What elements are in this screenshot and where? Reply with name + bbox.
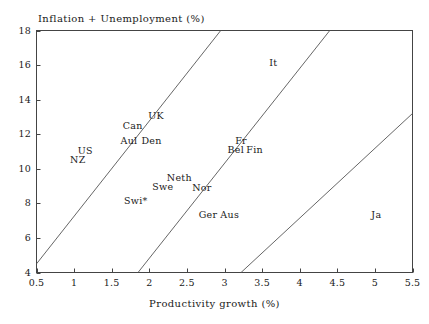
x-tick-label: 4.5 bbox=[322, 277, 352, 288]
country-label-us: US bbox=[78, 144, 93, 155]
y-tick-label: 16 bbox=[9, 59, 31, 70]
x-tick-label: 5 bbox=[360, 277, 390, 288]
y-tick-label: 6 bbox=[9, 232, 31, 243]
country-label-neth: Neth bbox=[167, 172, 192, 183]
country-label-aus: Aus bbox=[220, 208, 239, 219]
country-label-aul: Aul bbox=[121, 135, 138, 146]
chart-figure: Inflation + Unemployment (%) Productivit… bbox=[0, 0, 429, 324]
isoline-1 bbox=[37, 31, 221, 264]
x-tick-label: 1.5 bbox=[97, 277, 127, 288]
y-tick-label: 8 bbox=[9, 197, 31, 208]
country-label-can: Can bbox=[123, 119, 143, 130]
x-tick-label: 0.5 bbox=[22, 277, 52, 288]
country-label-nz: NZ bbox=[70, 154, 86, 165]
x-tick-label: 4 bbox=[285, 277, 315, 288]
x-tick-label: 1 bbox=[59, 277, 89, 288]
y-tick-label: 12 bbox=[9, 128, 31, 139]
plot-area bbox=[0, 0, 429, 324]
tick-marks bbox=[37, 32, 414, 274]
country-label-nor: Nor bbox=[192, 181, 211, 192]
country-label-ger: Ger bbox=[199, 208, 218, 219]
country-label-uk: UK bbox=[148, 110, 164, 121]
y-tick-label: 14 bbox=[9, 94, 31, 105]
isoline-3 bbox=[241, 113, 412, 272]
x-tick-label: 2 bbox=[134, 277, 164, 288]
y-tick-label: 18 bbox=[9, 25, 31, 36]
x-tick-label: 3.5 bbox=[247, 277, 277, 288]
x-tick-label: 3 bbox=[210, 277, 240, 288]
country-label-den: Den bbox=[141, 135, 161, 146]
y-tick-label: 4 bbox=[9, 267, 31, 278]
country-label-ja: Ja bbox=[371, 208, 381, 219]
y-tick-label: 10 bbox=[9, 163, 31, 174]
country-label-fin: Fin bbox=[246, 143, 263, 154]
country-label-it: It bbox=[269, 57, 277, 68]
x-tick-label: 2.5 bbox=[172, 277, 202, 288]
country-label-bel: Bel bbox=[227, 143, 244, 154]
country-label-swi: Swi* bbox=[124, 194, 148, 205]
x-tick-label: 5.5 bbox=[398, 277, 428, 288]
